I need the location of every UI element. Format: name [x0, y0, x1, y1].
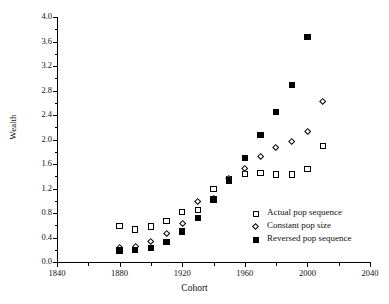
y-tick: [53, 91, 57, 92]
y-tick-label: 2.4: [20, 110, 52, 119]
y-tick: [53, 140, 57, 141]
wealth-by-cohort-scatter-chart: Wealth Cohort 0.00.40.81.21.62.02.42.83.…: [0, 0, 389, 304]
x-minor-tick: [214, 263, 215, 266]
x-tick-label: 1880: [100, 269, 140, 278]
open-diamond-icon: [319, 98, 327, 106]
legend-item-actual-pop-sequence[interactable]: Actual pop sequence: [253, 207, 387, 220]
y-tick: [53, 238, 57, 239]
y-tick: [53, 66, 57, 67]
open-diamond-icon: [252, 223, 259, 230]
y-minor-tick: [55, 176, 58, 177]
x-tick-label: 1960: [225, 269, 265, 278]
open-square-icon: [320, 143, 326, 149]
x-tick: [245, 263, 246, 267]
legend-label: Actual pop sequence: [267, 207, 342, 217]
y-tick: [53, 42, 57, 43]
open-square-icon: [273, 171, 279, 177]
x-tick: [57, 263, 58, 267]
axis-line: [57, 17, 58, 263]
filled-square-icon: [257, 132, 263, 138]
legend-item-reversed-pop-sequence[interactable]: Reversed pop sequence: [253, 233, 387, 246]
open-square-icon: [116, 223, 122, 229]
open-square-icon: [179, 209, 185, 215]
y-tick-label: 3.2: [20, 61, 52, 70]
y-minor-tick: [55, 225, 58, 226]
y-tick-label: 1.6: [20, 159, 52, 168]
open-square-icon: [132, 226, 138, 232]
y-axis-title: Wealth: [8, 101, 18, 153]
x-tick-label: 2040: [350, 269, 389, 278]
filled-square-icon: [226, 177, 232, 183]
y-tick: [53, 189, 57, 190]
open-square-icon: [253, 211, 259, 217]
y-minor-tick: [55, 127, 58, 128]
y-minor-tick: [55, 201, 58, 202]
open-diamond-icon: [178, 220, 186, 228]
open-square-icon: [163, 218, 169, 224]
y-tick: [53, 115, 57, 116]
filled-square-icon: [304, 34, 310, 40]
open-square-icon: [195, 207, 201, 213]
x-tick-label: 1920: [162, 269, 202, 278]
x-tick-label: 2000: [287, 269, 327, 278]
y-minor-tick: [55, 54, 58, 55]
y-tick-label: 2.8: [20, 86, 52, 95]
x-minor-tick: [339, 263, 340, 266]
filled-square-icon: [253, 237, 259, 243]
open-square-icon: [289, 171, 295, 177]
filled-square-icon: [148, 245, 154, 251]
x-tick: [120, 263, 121, 267]
y-tick-label: 1.2: [20, 184, 52, 193]
y-tick: [53, 164, 57, 165]
y-tick-label: 0.4: [20, 233, 52, 242]
legend-label: Reversed pop sequence: [267, 233, 351, 243]
open-diamond-icon: [194, 198, 202, 206]
x-axis-title: Cohort: [0, 283, 389, 293]
y-tick-label: 0.8: [20, 208, 52, 217]
chart-legend: Actual pop sequence Constant pop size Re…: [253, 207, 387, 246]
filled-square-icon: [273, 109, 279, 115]
y-tick-label: 3.6: [20, 37, 52, 46]
y-tick-label: 0.0: [20, 257, 52, 266]
x-minor-tick: [151, 263, 152, 266]
filled-square-icon: [179, 228, 185, 234]
open-diamond-icon: [304, 128, 312, 136]
x-tick: [182, 263, 183, 267]
filled-square-icon: [210, 196, 216, 202]
x-tick-label: 1840: [37, 269, 77, 278]
x-minor-tick: [88, 263, 89, 266]
open-diamond-icon: [257, 153, 265, 161]
y-minor-tick: [55, 29, 58, 30]
open-square-icon: [148, 223, 154, 229]
open-square-icon: [304, 166, 310, 172]
filled-square-icon: [116, 247, 122, 253]
filled-square-icon: [195, 215, 201, 221]
open-diamond-icon: [288, 138, 296, 146]
y-tick: [53, 213, 57, 214]
legend-item-constant-pop-size[interactable]: Constant pop size: [253, 220, 387, 233]
filled-square-icon: [242, 155, 248, 161]
x-minor-tick: [276, 263, 277, 266]
filled-square-icon: [289, 82, 295, 88]
y-tick-label: 4.0: [20, 12, 52, 21]
open-square-icon: [257, 170, 263, 176]
filled-square-icon: [132, 247, 138, 253]
y-minor-tick: [55, 78, 58, 79]
y-tick: [53, 17, 57, 18]
open-diamond-icon: [272, 144, 280, 152]
y-minor-tick: [55, 103, 58, 104]
legend-label: Constant pop size: [267, 220, 331, 230]
y-minor-tick: [55, 152, 58, 153]
open-diamond-icon: [163, 229, 171, 237]
x-tick: [307, 263, 308, 267]
x-tick: [370, 263, 371, 267]
filled-square-icon: [163, 239, 169, 245]
y-tick-label: 2.0: [20, 135, 52, 144]
open-square-icon: [210, 186, 216, 192]
y-minor-tick: [55, 250, 58, 251]
